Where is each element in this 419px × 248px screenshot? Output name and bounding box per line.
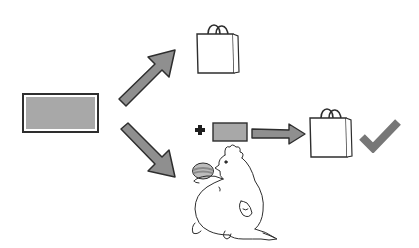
plus-icon (194, 124, 206, 136)
arrow-to-top-bag (115, 46, 180, 108)
arrow-to-chicken (118, 120, 180, 182)
checkmark-icon (358, 117, 402, 153)
chicken-illustration (185, 143, 285, 245)
source-box (22, 93, 99, 133)
small-box (212, 122, 248, 142)
shopping-bag-icon (194, 16, 240, 76)
shopping-bag-icon (307, 100, 353, 160)
